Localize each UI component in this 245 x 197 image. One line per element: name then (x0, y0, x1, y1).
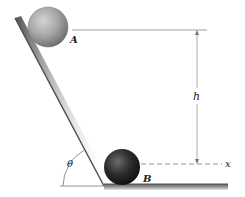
point-a-label: A (69, 34, 78, 45)
incline-diagram: θ h x A B (0, 0, 245, 197)
height-label: h (193, 90, 200, 103)
point-b-label: B (142, 173, 151, 184)
x-axis-label: x (225, 158, 231, 169)
ball-a (28, 7, 68, 47)
arrow-up-icon (195, 30, 199, 35)
incline-surface (15, 16, 111, 186)
arrow-down-icon (195, 159, 199, 164)
ball-b (104, 149, 140, 185)
angle-label: θ (67, 158, 73, 169)
